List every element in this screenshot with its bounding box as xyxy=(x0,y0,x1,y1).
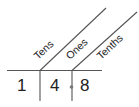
decimal-point-dot xyxy=(70,85,74,89)
digit-tens: 1 xyxy=(17,76,26,95)
header-tens: Tens xyxy=(31,38,55,62)
digit-ones: 4 xyxy=(50,76,59,95)
place-value-chart: Tens Ones Tenths 1 4 8 xyxy=(0,0,139,107)
digit-tenths: 8 xyxy=(80,76,89,95)
diagonal-divider-tens-ones xyxy=(40,8,106,71)
